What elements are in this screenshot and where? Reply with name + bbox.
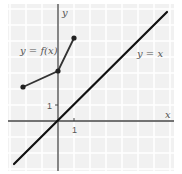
x-axis-label: x bbox=[165, 109, 171, 120]
f-label: y = f(x) bbox=[19, 45, 58, 56]
f-point-middle bbox=[55, 68, 60, 73]
x-tick-label: 1 bbox=[72, 125, 77, 135]
f-point-left bbox=[20, 84, 25, 89]
f-point-top bbox=[71, 35, 76, 40]
y-axis-label: y bbox=[61, 7, 68, 18]
y-tick-label: 1 bbox=[47, 101, 52, 111]
identity-label: y = x bbox=[136, 48, 163, 59]
function-plot: 1 1 y x y = x y = f(x) bbox=[0, 0, 182, 174]
